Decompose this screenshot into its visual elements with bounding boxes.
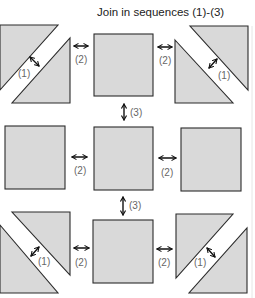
middle-left-square <box>5 126 65 189</box>
step-label-3: (3) <box>129 200 141 211</box>
step-label-2: (2) <box>74 165 86 176</box>
step-label-2: (2) <box>159 55 171 66</box>
quilt-block-assembly-diagram: Join in sequences (1)-(3) (1) (2) (2) (1… <box>0 0 255 298</box>
diagram-title: Join in sequences (1)-(3) <box>97 6 224 18</box>
top-middle-square <box>94 34 153 96</box>
step-label-1: (1) <box>218 70 230 81</box>
step-label-2: (2) <box>75 54 87 65</box>
step-label-2: (2) <box>75 257 87 268</box>
center-square <box>94 127 153 190</box>
bottom-middle-square <box>93 220 153 283</box>
double-arrow-icon <box>31 247 39 256</box>
step-label-3: (3) <box>130 107 142 118</box>
middle-right-square <box>181 128 241 191</box>
double-arrow-icon <box>30 57 39 66</box>
bottom-left-hst-unit: (1) <box>0 212 70 293</box>
top-right-hst-unit: (1) <box>175 26 248 103</box>
step-label-1: (1) <box>194 257 206 268</box>
top-left-hst-unit: (1) <box>0 25 70 103</box>
step-label-1: (1) <box>18 68 30 79</box>
double-arrow-icon <box>209 59 217 68</box>
step-label-1: (1) <box>38 256 50 267</box>
double-arrow-icon <box>207 248 215 257</box>
step-label-2: (2) <box>158 257 170 268</box>
bottom-right-hst-unit: (1) <box>176 214 247 293</box>
step-label-2: (2) <box>161 167 173 178</box>
